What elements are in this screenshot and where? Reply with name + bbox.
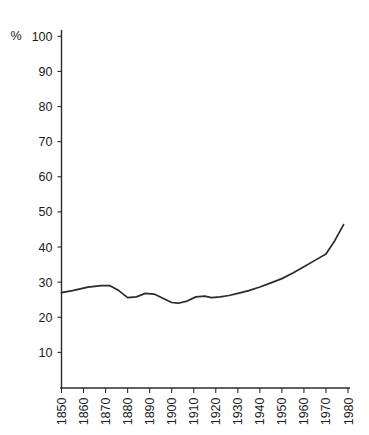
x-tick-label: 1890 [143,397,157,425]
x-tick-label: 1900 [165,397,179,425]
x-tick-label: 1850 [55,397,69,425]
y-tick-label: 100 [32,30,53,44]
series-group [62,225,344,304]
chart-container: 102030405060708090100 185018601870188018… [0,0,369,435]
y-tick-label: 10 [39,346,53,360]
x-tick-label: 1860 [77,397,91,425]
x-tick-label: 1940 [253,397,267,425]
y-tick-label: 70 [39,135,53,149]
x-tick-group: 1850186018701880189019001910192019301940… [55,388,356,425]
axis-group [60,30,350,388]
x-tick-label: 1960 [297,397,311,425]
y-axis-unit-label: % [10,29,21,43]
y-tick-label: 40 [39,241,53,255]
y-tick-label: 20 [39,311,53,325]
x-tick-label: 1950 [275,397,289,425]
x-tick-label: 1970 [319,397,333,425]
y-tick-label: 30 [39,276,53,290]
x-tick-label: 1910 [187,397,201,425]
x-tick-label: 1920 [209,397,223,425]
y-tick-label: 90 [39,65,53,79]
x-tick-label: 1880 [121,397,135,425]
y-tick-label: 80 [39,100,53,114]
x-tick-label: 1930 [231,397,245,425]
x-tick-label: 1870 [99,397,113,425]
x-tick-label: 1980 [342,397,356,425]
line-chart: 102030405060708090100 185018601870188018… [0,0,369,435]
series-line-series-1 [62,225,344,304]
y-tick-group: 102030405060708090100 [32,30,62,360]
y-tick-label: 60 [39,170,53,184]
y-tick-label: 50 [39,205,53,219]
